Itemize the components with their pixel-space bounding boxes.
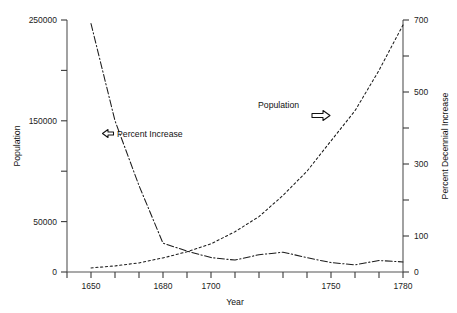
x-tick-label-1650: 1650	[82, 281, 101, 291]
y-axis-left-title: Population	[12, 125, 22, 166]
x-axis: 1650 1680 1700 1750 1780 Year	[67, 272, 413, 307]
annotation-percent-increase: Percent Increase	[103, 129, 183, 139]
x-tick-label-1700: 1700	[202, 281, 221, 291]
annotation-percent-increase-label: Percent Increase	[117, 129, 183, 139]
x-axis-title: Year	[226, 297, 244, 307]
y-axis-right-title: Percent Decennial Increase	[440, 92, 450, 199]
x-tick-label-1750: 1750	[322, 281, 341, 291]
annotation-population-label: Population	[258, 100, 299, 110]
chart-canvas: 250000 150000 50000 0 Population 700 500…	[0, 0, 457, 313]
y-tick-label-50000: 50000	[33, 217, 57, 227]
y2-tick-label-500: 500	[414, 87, 428, 97]
y-axis-left: 250000 150000 50000 0 Population	[12, 15, 67, 277]
x-tick-label-1680: 1680	[154, 281, 173, 291]
y2-tick-label-700: 700	[414, 15, 428, 25]
y2-tick-label-100: 100	[414, 231, 428, 241]
y2-tick-label-300: 300	[414, 159, 428, 169]
series-percent-increase	[91, 24, 403, 265]
y2-tick-label-0: 0	[414, 267, 419, 277]
series-population	[91, 25, 403, 268]
arrow-left-icon	[103, 130, 114, 138]
x-tick-label-1780: 1780	[394, 281, 413, 291]
arrow-right-icon	[312, 111, 330, 121]
chart-figure: 250000 150000 50000 0 Population 700 500…	[0, 0, 457, 313]
annotation-population: Population	[258, 100, 330, 121]
y-tick-label-0: 0	[52, 267, 57, 277]
y-tick-label-250000: 250000	[29, 15, 58, 25]
y-tick-label-150000: 150000	[29, 116, 58, 126]
y-axis-right: 700 500 300 100 0 Percent Decennial Incr…	[403, 15, 450, 277]
